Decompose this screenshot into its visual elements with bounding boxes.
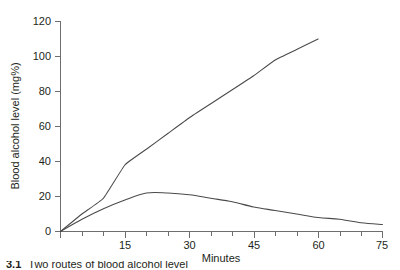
- y-tick-label-80: 80: [39, 85, 51, 97]
- figure-caption: 3.1Two routes of blood alcohol level: [0, 261, 400, 270]
- blood-alcohol-line-chart: 120 100 80 60 40 20 0 Blood alcohol leve…: [0, 0, 400, 270]
- caption-number: 3.1: [6, 261, 21, 270]
- x-tick-label-45: 45: [248, 239, 260, 251]
- y-tick-label-40: 40: [39, 155, 51, 167]
- data-series-group: [61, 39, 383, 232]
- y-axis-group: 120 100 80 60 40 20 0 Blood alcohol leve…: [9, 15, 61, 237]
- y-tick-label-0: 0: [45, 225, 51, 237]
- x-tick-label-60: 60: [312, 239, 324, 251]
- series-line-lower-curve: [61, 192, 383, 231]
- y-tick-label-60: 60: [39, 120, 51, 132]
- x-axis-major-ticks: [61, 232, 383, 238]
- figure-container: 120 100 80 60 40 20 0 Blood alcohol leve…: [0, 0, 400, 270]
- x-tick-label-15: 15: [119, 239, 131, 251]
- y-tick-label-100: 100: [33, 50, 51, 62]
- y-tick-label-20: 20: [39, 190, 51, 202]
- y-axis-tick-labels: 120 100 80 60 40 20 0: [33, 15, 51, 237]
- x-axis-tick-labels: 15 30 45 60 75: [119, 239, 388, 251]
- y-axis-title: Blood alcohol level (mg%): [9, 62, 21, 189]
- x-tick-label-30: 30: [183, 239, 195, 251]
- series-line-upper-curve: [61, 39, 319, 232]
- x-tick-label-75: 75: [376, 239, 388, 251]
- caption-label: Two routes of blood alcohol level: [28, 261, 188, 270]
- x-axis-minor-ticks: [82, 232, 362, 236]
- y-axis-ticks: [55, 22, 60, 232]
- x-axis-group: 15 30 45 60 75 Minutes: [60, 232, 388, 265]
- y-tick-label-120: 120: [33, 15, 51, 27]
